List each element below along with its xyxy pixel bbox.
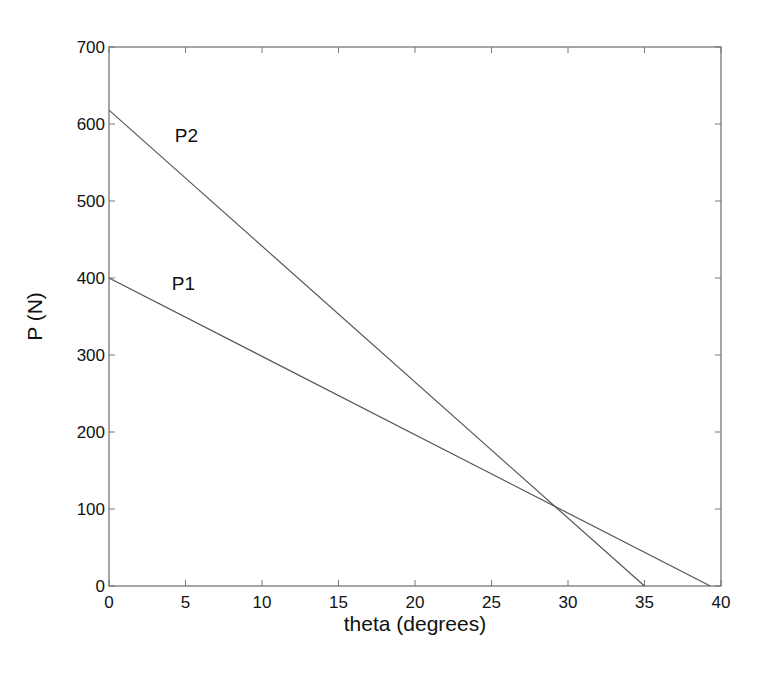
y-tick-label: 700 — [77, 38, 105, 57]
series-lines — [109, 110, 710, 586]
y-tick-label: 300 — [77, 346, 105, 365]
y-tick-label: 600 — [77, 115, 105, 134]
y-tick-label: 100 — [77, 500, 105, 519]
y-axis-label: P (N) — [23, 292, 46, 341]
x-tick-label: 0 — [104, 593, 113, 612]
y-tick-label: 500 — [77, 192, 105, 211]
annotation-p1: P1 — [172, 273, 195, 294]
plot-border — [109, 47, 721, 586]
x-tick-label: 10 — [253, 593, 272, 612]
plot-frame — [109, 47, 721, 586]
y-tick-label: 0 — [96, 577, 105, 596]
y-tick-label: 400 — [77, 269, 105, 288]
x-tick-label: 35 — [635, 593, 654, 612]
annotation-p2: P2 — [175, 125, 198, 146]
x-tick-label: 15 — [329, 593, 348, 612]
x-axis-label: theta (degrees) — [344, 612, 486, 635]
series-p1-line — [109, 278, 710, 586]
annotations: P2P1 — [172, 125, 198, 295]
x-tick-label: 40 — [712, 593, 731, 612]
series-p2-line — [109, 110, 645, 586]
x-tick-label: 5 — [181, 593, 190, 612]
x-tick-label: 20 — [406, 593, 425, 612]
y-tick-label: 200 — [77, 423, 105, 442]
x-tick-label: 30 — [559, 593, 578, 612]
x-tick-label: 25 — [482, 593, 501, 612]
line-chart: 05101520253035400100200300400500600700 P… — [0, 0, 768, 678]
